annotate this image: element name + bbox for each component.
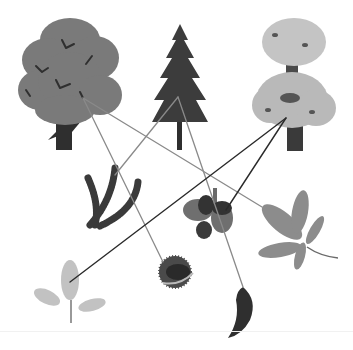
horse-chestnut-tree[interactable] (252, 18, 336, 151)
fir-tree[interactable] (152, 24, 208, 150)
oak-tree[interactable] (18, 18, 122, 150)
line-fir-tree-to-fir-branch (115, 97, 178, 175)
acorns[interactable] (183, 188, 233, 239)
line-chestnut-tree-to-acorns (226, 118, 286, 210)
oak-leaf[interactable] (31, 260, 107, 323)
horse-chestnut-leaf[interactable] (256, 189, 338, 271)
matching-diagram (0, 0, 353, 350)
bottom-divider (0, 331, 353, 332)
conker[interactable] (159, 256, 193, 288)
fir-branch[interactable] (88, 168, 138, 226)
